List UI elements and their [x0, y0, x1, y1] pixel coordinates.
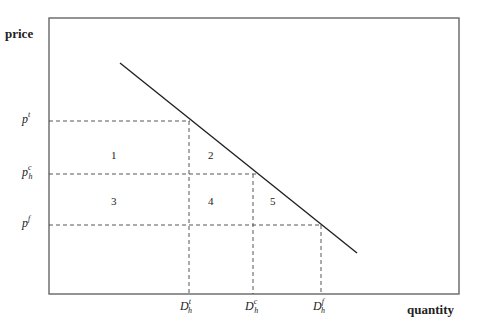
x-axis-title: quantity — [407, 303, 454, 316]
label-p-f: pf — [22, 217, 30, 229]
demand-curve — [120, 63, 357, 253]
region-3: 3 — [111, 196, 117, 207]
y-axis-title: price — [5, 27, 33, 40]
region-5: 5 — [270, 196, 276, 207]
label-d-h-c: Dch — [245, 300, 258, 312]
label-d-h-f: Dfh — [313, 300, 325, 312]
diagram-canvas — [0, 0, 483, 329]
region-1: 1 — [111, 150, 117, 161]
region-2: 2 — [208, 150, 214, 161]
region-4: 4 — [208, 196, 214, 207]
label-p-h-c: pch — [22, 166, 33, 178]
label-p-t: pt — [22, 113, 30, 125]
label-d-h-t: Dth — [180, 300, 192, 312]
